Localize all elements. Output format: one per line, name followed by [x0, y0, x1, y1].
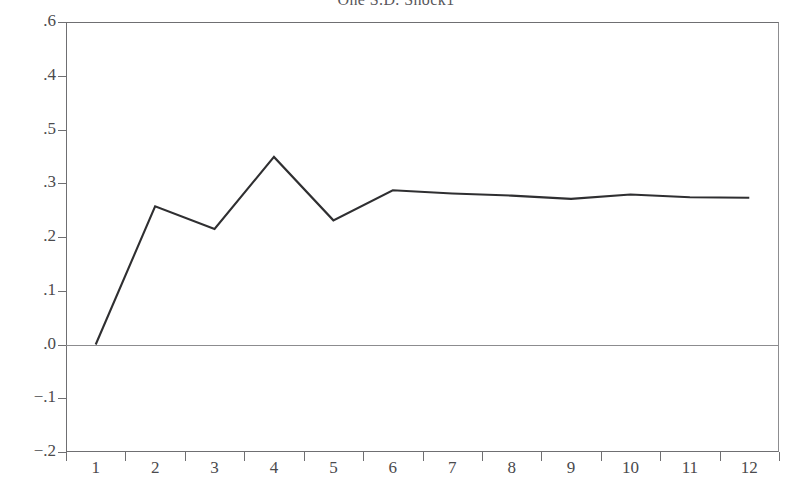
y-tick-mark: [58, 22, 66, 23]
x-tick-mark: [423, 452, 424, 461]
x-tick-mark: [244, 452, 245, 461]
x-tick-mark: [660, 452, 661, 461]
x-tick-mark: [541, 452, 542, 461]
y-tick-mark: [58, 345, 66, 346]
x-tick-mark: [779, 452, 780, 461]
impulse-response-figure: One S.D. Shock1 .6.4.5.3.2.1.0−.1−.2 123…: [0, 0, 792, 502]
data-series-layer: [0, 0, 792, 502]
x-tick-mark: [66, 452, 67, 461]
y-tick-mark: [58, 76, 66, 77]
x-tick-mark: [185, 452, 186, 461]
y-tick-mark: [58, 130, 66, 131]
impulse-response-line: [96, 157, 750, 345]
x-tick-mark: [363, 452, 364, 461]
x-tick-mark: [482, 452, 483, 461]
x-tick-mark: [304, 452, 305, 461]
x-tick-mark: [720, 452, 721, 461]
y-tick-mark: [58, 452, 66, 453]
y-tick-mark: [58, 291, 66, 292]
y-tick-mark: [58, 183, 66, 184]
y-tick-mark: [58, 398, 66, 399]
x-tick-mark: [125, 452, 126, 461]
y-tick-mark: [58, 237, 66, 238]
x-tick-mark: [601, 452, 602, 461]
